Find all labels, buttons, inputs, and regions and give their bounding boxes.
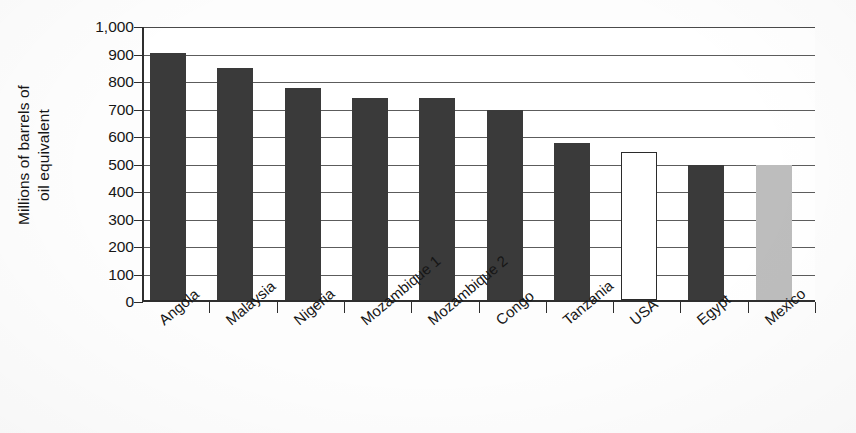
bar-series bbox=[144, 27, 815, 300]
x-axis-tick-mark bbox=[815, 302, 816, 313]
bar-malaysia bbox=[217, 68, 253, 300]
y-axis-tick-label: 600 bbox=[108, 129, 134, 145]
x-axis-tick-mark bbox=[479, 302, 480, 313]
y-axis-tick-label: 400 bbox=[108, 184, 134, 200]
y-axis-tick-label: 700 bbox=[108, 102, 134, 118]
bar-mexico bbox=[756, 165, 792, 300]
y-axis-tick-mark bbox=[134, 302, 143, 303]
y-axis-tick-labels: 01002003004005006007008009001,000 bbox=[60, 27, 140, 302]
x-axis-tick-mark bbox=[411, 302, 412, 313]
bar-mozambique-1 bbox=[352, 98, 388, 300]
y-axis-tick-label: 800 bbox=[108, 74, 134, 90]
bar-usa bbox=[621, 152, 657, 301]
y-axis-title-line-1: Millions of barrels of bbox=[15, 85, 32, 225]
x-axis-tick-mark bbox=[344, 302, 345, 313]
y-axis-tick-label: 0 bbox=[125, 294, 134, 310]
y-axis-title: Millions of barrels of oil equivalent bbox=[6, 0, 62, 310]
bar-nigeria bbox=[285, 88, 321, 300]
x-axis-tick-mark bbox=[748, 302, 749, 313]
bar-tanzania bbox=[554, 143, 590, 300]
x-axis-tick-mark bbox=[209, 302, 210, 313]
x-axis-tick-mark bbox=[546, 302, 547, 313]
bar-angola bbox=[150, 53, 186, 301]
y-axis-tick-label: 500 bbox=[108, 157, 134, 173]
y-axis-tick-label: 1,000 bbox=[95, 19, 134, 35]
y-axis-tick-label: 300 bbox=[108, 212, 134, 228]
y-axis-tick-label: 200 bbox=[108, 239, 134, 255]
x-axis-tick-mark bbox=[277, 302, 278, 313]
y-axis-tick-label: 900 bbox=[108, 47, 134, 63]
y-axis-title-line-2: oil equivalent bbox=[34, 85, 54, 225]
x-axis-tick-mark bbox=[613, 302, 614, 313]
y-axis-tick-label: 100 bbox=[108, 267, 134, 283]
plot-area bbox=[142, 27, 815, 302]
bar-chart-figure: Millions of barrels of oil equivalent 01… bbox=[0, 0, 856, 433]
bar-egypt bbox=[688, 165, 724, 300]
x-axis-tick-mark bbox=[680, 302, 681, 313]
